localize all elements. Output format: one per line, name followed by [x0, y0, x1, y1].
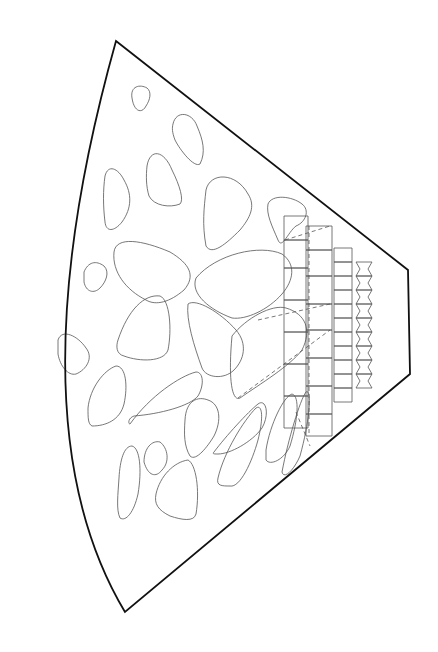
diagram-canvas: [0, 0, 438, 652]
